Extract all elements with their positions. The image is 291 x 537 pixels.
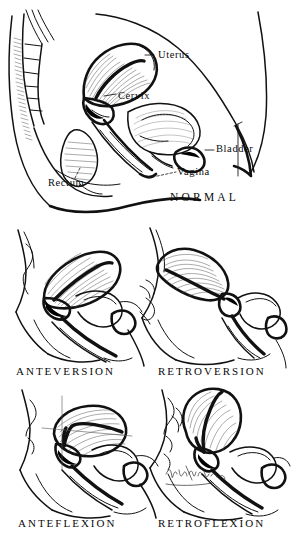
- panel-retroflexion: [150, 389, 290, 520]
- rv-uterus-outline: [157, 249, 228, 301]
- rf-uterus-outline: [183, 389, 241, 453]
- caption-anteflexion: ANTEFLEXION: [18, 518, 116, 529]
- rv-sacrum-outline: [142, 228, 159, 318]
- label-uterus: Uterus: [158, 50, 190, 61]
- af-vagina-rugae: [70, 476, 118, 508]
- rf-sacrum-outline: [150, 390, 167, 468]
- rf-inner-contour: [168, 474, 204, 512]
- rf-coccyx: [164, 454, 170, 470]
- sacral-segment-3: [24, 72, 38, 74]
- rf-uterine-cavity: [203, 392, 222, 452]
- af-sacrum-outline: [20, 390, 30, 470]
- rv-perineum: [176, 360, 234, 365]
- cervix-leader: [104, 94, 116, 96]
- vagina-leader: [148, 172, 176, 178]
- af-posterior-wall: [20, 470, 52, 510]
- figure-root: Uterus Cervix Bladder Vagina Rectum NORM…: [0, 0, 291, 537]
- label-vagina: Vagina: [177, 167, 210, 178]
- rf-bladder-inner: [238, 453, 270, 460]
- lumbar-spine-line-3: [38, 10, 54, 40]
- af-thigh-line: [114, 508, 146, 514]
- pubic-bone-shading: [180, 152, 200, 158]
- rf-bowel-segment: [172, 416, 179, 432]
- af-anterior-wall: [140, 484, 156, 518]
- sacral-segment-5: [27, 98, 39, 99]
- rv-vagina-anterior: [232, 316, 264, 354]
- vaginal-rugae-2: [100, 130, 142, 172]
- rf-bowel-loop: [176, 408, 182, 426]
- anatomy-illustration: [0, 0, 291, 537]
- av-lower-contour: [34, 320, 70, 358]
- rv-coccyx: [142, 298, 155, 320]
- caption-retroflexion: RETROFLEXION: [158, 518, 265, 529]
- af-inner-contour: [36, 474, 72, 512]
- rv-posterior-contour: [142, 318, 176, 360]
- caption-normal: NORMAL: [170, 192, 239, 204]
- panel-anteversion: [16, 230, 144, 366]
- vagina-posterior-wall: [92, 122, 140, 174]
- rv-lower-right: [276, 340, 286, 368]
- rf-vagina-rugae: [210, 480, 258, 512]
- rv-bowel-segment: [140, 286, 150, 298]
- label-cervix: Cervix: [118, 91, 150, 102]
- av-pubic-bone: [112, 311, 136, 334]
- rf-posterior-wall: [150, 468, 184, 512]
- av-anterior-wall: [128, 330, 144, 366]
- label-rectum: Rectum: [48, 178, 84, 189]
- af-uterine-cavity: [64, 424, 122, 446]
- panel-anteflexion: [20, 390, 158, 518]
- sacral-segment-4: [25, 86, 38, 87]
- caption-anteversion: ANTEVERSION: [16, 366, 115, 377]
- rv-uterine-cavity: [166, 270, 224, 299]
- sacral-segment-2: [24, 58, 39, 60]
- af-sacrum-ridge-1: [26, 400, 36, 436]
- av-posterior-wall: [16, 312, 48, 354]
- sacrum-outline-right: [38, 44, 44, 124]
- sacral-segment-1: [25, 44, 41, 46]
- av-sacrum-outline: [16, 230, 26, 312]
- av-thigh-line: [104, 358, 132, 361]
- sacrum-outline-left: [23, 14, 35, 126]
- panel-retroversion: [140, 228, 286, 368]
- rv-bladder-inner: [246, 299, 276, 306]
- rv-vagina-rugae: [228, 326, 260, 358]
- label-bladder: Bladder: [216, 144, 253, 155]
- rv-bowel-loop: [146, 280, 155, 294]
- rf-sacrum-ridge-2: [166, 436, 172, 452]
- caption-retroversion: RETROVERSION: [158, 366, 266, 377]
- rectum-hatching: [65, 142, 96, 180]
